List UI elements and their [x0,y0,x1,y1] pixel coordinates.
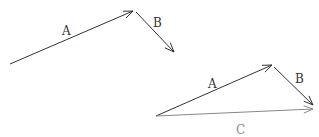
vector-a-top [10,11,133,64]
vector-c-bottom [156,106,313,116]
label-c-bottom: C [236,123,245,137]
vector-b-bottom [274,67,313,105]
label-b-bottom: B [295,72,304,86]
label-b-top: B [153,16,162,30]
label-a-bottom: A [207,77,217,91]
vector-diagram-svg: ABABC [0,0,319,137]
label-a-top: A [61,24,71,38]
vector-diagram: ABABC [0,0,319,137]
